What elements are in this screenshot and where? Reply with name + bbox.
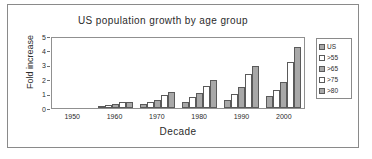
y-axis-tick-mark (47, 95, 50, 96)
x-axis-tick-label: 1990 (220, 113, 262, 125)
y-axis-tick-mark (47, 51, 50, 52)
y-axis-tick-mark (47, 80, 50, 81)
x-axis-tick-label: 1980 (178, 113, 220, 125)
legend-item-label: >75 (327, 76, 338, 83)
legend-item[interactable]: >65 (319, 63, 349, 74)
bar (266, 96, 273, 108)
bar (224, 100, 231, 108)
legend-swatch-icon (319, 44, 325, 50)
legend-item-label: >65 (327, 65, 338, 72)
legend-item-label: >55 (327, 54, 338, 61)
bar (154, 100, 161, 108)
y-axis-tick-mark (47, 37, 50, 38)
chart-title: US population growth by age group (8, 15, 318, 26)
bar (98, 106, 105, 108)
x-axis: 195019601970198019902000 (51, 113, 305, 125)
chart-legend: US>55>65>75>80 (316, 38, 352, 99)
y-axis-tick-label: 5 (42, 34, 46, 41)
y-axis-tick-label: 1 (42, 91, 46, 98)
bar (210, 80, 217, 108)
legend-item[interactable]: >80 (319, 85, 349, 96)
y-axis-tick-label: 0 (42, 106, 46, 113)
x-axis-tick-label: 1960 (93, 113, 135, 125)
y-axis-tick-label: 2 (42, 77, 46, 84)
bar (182, 102, 189, 108)
legend-item-label: US (327, 43, 336, 50)
bar (105, 105, 112, 108)
bar (287, 62, 294, 108)
x-axis-label: Decade (51, 126, 305, 137)
bar (238, 87, 245, 108)
bars-layer (52, 38, 304, 108)
bar (273, 90, 280, 108)
bar (245, 74, 252, 108)
bar (189, 97, 196, 108)
bar (112, 104, 119, 108)
legend-item-label: >80 (327, 87, 338, 94)
legend-swatch-icon (319, 77, 325, 83)
bar (140, 104, 147, 108)
bar (231, 94, 238, 108)
bar (294, 47, 301, 108)
plot-area (51, 37, 305, 109)
bar (196, 93, 203, 108)
x-axis-tick-label: 1950 (51, 113, 93, 125)
legend-swatch-icon (319, 55, 325, 61)
decade-group (262, 38, 304, 108)
bar (203, 86, 210, 108)
decade-group (136, 38, 178, 108)
legend-item[interactable]: >55 (319, 52, 349, 63)
bar (168, 92, 175, 108)
decade-group (52, 38, 94, 108)
chart-figure: US population growth by age group Fold i… (7, 4, 359, 148)
decade-group (94, 38, 136, 108)
bar (147, 102, 154, 108)
bar (119, 102, 126, 108)
decade-group (178, 38, 220, 108)
x-axis-tick-label: 2000 (263, 113, 305, 125)
y-axis: 012345 (32, 31, 50, 115)
x-axis-tick-label: 1970 (136, 113, 178, 125)
legend-swatch-icon (319, 88, 325, 94)
decade-group (220, 38, 262, 108)
legend-item[interactable]: >75 (319, 74, 349, 85)
y-axis-tick-mark (47, 66, 50, 67)
y-axis-tick-label: 4 (42, 48, 46, 55)
bar (252, 66, 259, 108)
bar (126, 102, 133, 108)
legend-swatch-icon (319, 66, 325, 72)
bar (280, 82, 287, 108)
y-axis-tick-label: 3 (42, 62, 46, 69)
bar (161, 95, 168, 108)
y-axis-tick-mark (47, 109, 50, 110)
legend-item[interactable]: US (319, 41, 349, 52)
